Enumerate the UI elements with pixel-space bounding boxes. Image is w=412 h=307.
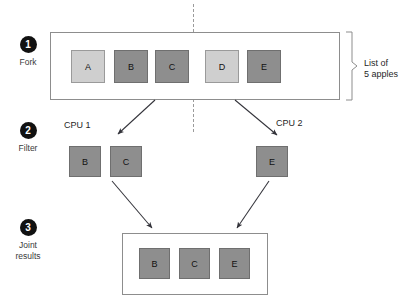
joint-square-c: C [179, 248, 210, 279]
fork-square-c: C [155, 50, 189, 83]
diagram-canvas: 1 Fork A B C D E List of 5 apples 2 Filt… [0, 0, 412, 307]
fork-square-e: E [247, 50, 281, 83]
fork-square-d-label: D [219, 62, 226, 72]
bracket-caption: List of 5 apples [364, 58, 410, 80]
filter-square-b-label: B [82, 157, 88, 167]
fork-square-c-label: C [169, 62, 176, 72]
step-label-filter: Filter [0, 143, 56, 154]
cpu1-label: CPU 1 [64, 120, 91, 131]
arrow-cpu2-to-joint [237, 181, 269, 228]
step-number-1: 1 [20, 36, 37, 53]
filter-square-c-label: C [123, 157, 130, 167]
step-label-fork: Fork [0, 57, 56, 68]
arrow-cpu1-to-joint [112, 181, 152, 228]
step-number-2: 2 [20, 122, 37, 139]
filter-square-c: C [110, 146, 142, 177]
step-label-joint-line1: Joint [0, 240, 56, 251]
fork-square-b-label: B [128, 62, 134, 72]
filter-square-e: E [256, 146, 288, 177]
fork-square-e-label: E [261, 62, 267, 72]
bracket-caption-line1: List of [364, 58, 410, 69]
step-number-3: 3 [20, 219, 37, 236]
joint-square-b-label: B [151, 259, 157, 269]
step-marker-joint-results: 3 Joint results [0, 219, 56, 261]
fork-square-a: A [71, 50, 105, 83]
joint-square-b: B [139, 248, 170, 279]
joint-square-c-label: C [191, 259, 198, 269]
step-label-joint-line2: results [0, 251, 56, 262]
filter-square-e-label: E [269, 157, 275, 167]
step-label-joint-results: Joint results [0, 240, 56, 261]
bracket-caption-line2: 5 apples [364, 69, 410, 80]
fork-square-d: D [205, 50, 239, 83]
list-bracket [346, 32, 357, 100]
joint-square-e: E [219, 248, 250, 279]
fork-square-b: B [114, 50, 148, 83]
arrow-fork-to-cpu1 [118, 100, 155, 134]
filter-square-b: B [69, 146, 101, 177]
fork-square-a-label: A [85, 62, 91, 72]
arrow-fork-to-cpu2 [235, 100, 277, 135]
step-marker-fork: 1 Fork [0, 36, 56, 68]
step-marker-filter: 2 Filter [0, 122, 56, 154]
joint-square-e-label: E [231, 259, 237, 269]
cpu2-label: CPU 2 [276, 118, 303, 129]
